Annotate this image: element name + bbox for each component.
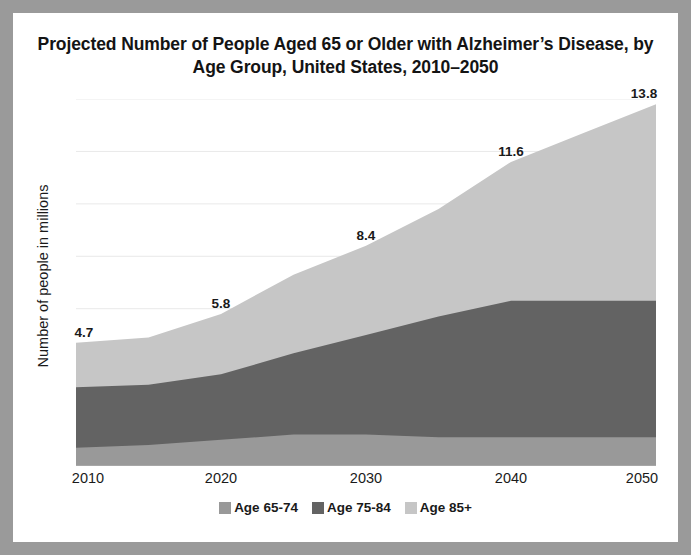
legend-item[interactable]: Age 65-74 (219, 500, 298, 515)
legend-item[interactable]: Age 75-84 (312, 500, 391, 515)
x-tick-label: 2040 (495, 470, 527, 486)
plot-area: 4.75.88.411.613.8 (76, 99, 656, 466)
legend-label: Age 75-84 (327, 500, 391, 515)
legend-swatch-icon (219, 502, 231, 514)
x-axis-ticks: 20102020203020402050 (76, 470, 656, 492)
x-tick-label: 2030 (350, 470, 382, 486)
legend-label: Age 85+ (420, 500, 472, 515)
area-series-group (76, 104, 656, 466)
data-label: 4.7 (75, 324, 94, 339)
chart-figure: Projected Number of People Aged 65 or Ol… (13, 13, 678, 542)
chart-title: Projected Number of People Aged 65 or Ol… (35, 33, 656, 80)
legend-swatch-icon (405, 502, 417, 514)
data-label: 11.6 (498, 143, 524, 158)
chart-legend: Age 65-74Age 75-84Age 85+ (13, 500, 678, 515)
data-label: 8.4 (357, 227, 376, 242)
y-axis-title: Number of people in millions (35, 146, 51, 406)
x-tick-label: 2010 (72, 470, 104, 486)
legend-swatch-icon (312, 502, 324, 514)
legend-item[interactable]: Age 85+ (405, 500, 472, 515)
data-label: 13.8 (631, 86, 657, 101)
x-tick-label: 2020 (205, 470, 237, 486)
legend-label: Age 65-74 (234, 500, 298, 515)
x-tick-label: 2050 (626, 470, 658, 486)
data-label: 5.8 (212, 296, 231, 311)
stacked-area-plot (76, 99, 656, 466)
